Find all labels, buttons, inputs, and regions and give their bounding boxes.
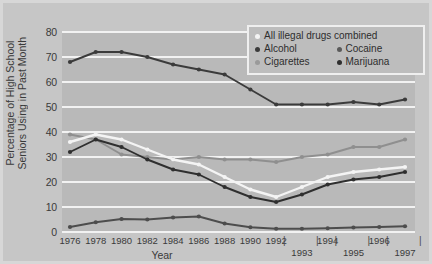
data-point [300, 102, 304, 106]
legend-item-label: Cigarettes [264, 56, 310, 68]
data-point [119, 217, 123, 221]
data-point [274, 227, 278, 231]
y-axis-tick-label: 20 [46, 176, 57, 188]
y-axis-tick-label: 10 [46, 201, 57, 213]
data-point [377, 175, 381, 179]
x-axis-tick-label: 1997 [394, 247, 415, 258]
data-point [300, 185, 304, 189]
series-all-illegal-drugs-combined [68, 132, 407, 199]
data-point [223, 185, 227, 189]
data-point [403, 170, 407, 174]
data-point [68, 60, 72, 64]
data-point [326, 175, 330, 179]
data-point [300, 155, 304, 159]
x-axis-tick-label: 1984 [162, 235, 183, 246]
chart-legend: All illegal drugs combinedAlcoholCocaine… [247, 25, 425, 75]
x-axis-tick-label: 1986 [188, 235, 209, 246]
data-point [94, 50, 98, 54]
data-point [403, 224, 407, 228]
data-point [274, 195, 278, 199]
dark-dot-icon [337, 60, 342, 65]
x-axis-tick-label: 1978 [85, 235, 106, 246]
data-point [300, 227, 304, 231]
data-point [326, 102, 330, 106]
legend-item: All illegal drugs combined [255, 30, 418, 42]
legend-row: AlcoholCocaine [255, 43, 418, 55]
series-cocaine [68, 214, 407, 230]
data-point [248, 157, 252, 161]
data-point [223, 221, 227, 225]
legend-item: Cigarettes [255, 56, 337, 68]
legend-row: CigarettesMarijuana [255, 56, 418, 68]
series-cigarettes [68, 132, 407, 164]
x-axis-tick-label: 1993 [291, 247, 312, 258]
data-point [197, 155, 201, 159]
data-point [403, 165, 407, 169]
y-axis-tick-label: 40 [46, 126, 57, 138]
chart-figure: Percentage of High School Seniors Using … [0, 0, 432, 264]
data-point [248, 87, 252, 91]
data-point [248, 195, 252, 199]
data-point [68, 140, 72, 144]
data-point [248, 187, 252, 191]
data-point [300, 192, 304, 196]
legend-item-label: All illegal drugs combined [264, 30, 377, 42]
data-point [68, 132, 72, 136]
data-point [351, 225, 355, 229]
x-axis-tick-separator: | [386, 235, 389, 246]
legend-item: Marijuana [337, 56, 419, 68]
y-axis-tick-label: 80 [46, 26, 57, 38]
legend-item-label: Cocaine [346, 43, 383, 55]
data-point [197, 214, 201, 218]
data-point [171, 215, 175, 219]
data-point [326, 182, 330, 186]
data-point [197, 172, 201, 176]
data-point [326, 152, 330, 156]
data-point [119, 145, 123, 149]
data-point [351, 177, 355, 181]
data-point [223, 72, 227, 76]
gray-dot-icon [255, 60, 260, 65]
legend-item: Cocaine [337, 43, 419, 55]
data-point [197, 162, 201, 166]
y-axis-title-text: Percentage of High School Seniors Using … [4, 37, 28, 169]
y-axis-tick-label: 30 [46, 151, 57, 163]
data-point [377, 102, 381, 106]
data-point [145, 157, 149, 161]
dark-dot-icon [255, 47, 260, 52]
data-point [274, 200, 278, 204]
legend-row: All illegal drugs combined [255, 30, 418, 42]
data-point [223, 157, 227, 161]
data-point [274, 160, 278, 164]
data-point [94, 220, 98, 224]
legend-item-label: Alcohol [264, 43, 297, 55]
x-axis-tick-label: 1988 [214, 235, 235, 246]
data-point [403, 97, 407, 101]
x-axis-tick-label: 1980 [111, 235, 132, 246]
data-point [171, 62, 175, 66]
data-point [94, 132, 98, 136]
x-axis-title: Year [62, 249, 262, 261]
data-point [351, 100, 355, 104]
data-point [377, 225, 381, 229]
data-point [248, 225, 252, 229]
data-point [171, 167, 175, 171]
x-axis-tick-separator: | [334, 235, 337, 246]
data-point [68, 150, 72, 154]
x-axis-tick-label: 1976 [59, 235, 80, 246]
data-point [119, 137, 123, 141]
y-axis-tick-label: 70 [46, 51, 57, 63]
data-point [403, 137, 407, 141]
series-line [70, 135, 405, 198]
data-point [68, 225, 72, 229]
data-point [326, 226, 330, 230]
legend-item: Alcohol [255, 43, 337, 55]
y-axis-tick-label: 60 [46, 76, 57, 88]
data-point [171, 157, 175, 161]
data-point [197, 67, 201, 71]
y-axis-tick-label: 50 [46, 101, 57, 113]
x-axis-title-text: Year [151, 249, 172, 261]
y-axis-title: Percentage of High School Seniors Using … [1, 3, 31, 203]
data-point [377, 145, 381, 149]
data-point [94, 137, 98, 141]
